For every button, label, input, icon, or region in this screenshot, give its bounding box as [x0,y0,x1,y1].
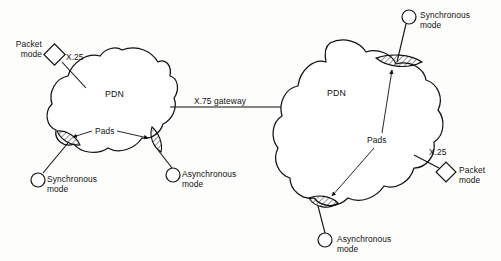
left-synchronous-mode-circle [31,173,45,187]
left-synchronous-mode-label: Synchronous mode [47,174,97,194]
right-x25-label: X.25 [429,147,447,157]
x75-gateway-label: X.75 gateway [194,96,246,106]
right-asynchronous-mode-circle [318,233,332,247]
right-packet-mode-label: Packet mode [459,165,485,185]
diagram-canvas [0,0,501,261]
right-asynchronous-mode-label: Asynchronous mode [337,234,391,254]
left-pads-label: Pads [95,126,115,136]
left-x25-label: X.25 [66,52,84,62]
right-synchronous-mode-circle [402,10,416,24]
right-pdn-label: PDN [327,88,346,98]
left-asynchronous-mode-circle [166,168,180,182]
right-pads-label: Pads [367,135,387,145]
left-synchronous-link [43,143,68,173]
left-pdn-label: PDN [105,89,124,99]
right-asynchronous-link [318,206,325,233]
right-packet-mode-diamond [436,162,456,182]
left-packet-mode-diamond [44,44,65,65]
right-pdn-cloud [273,40,443,206]
right-synchronous-mode-label: Synchronous mode [420,10,470,30]
left-asynchronous-mode-label: Asynchronous mode [182,169,236,189]
left-asynchronous-link [158,150,172,168]
left-packet-mode-label: Packet mode [6,39,42,59]
network-diagram: Packet mode X.25 PDN Pads Synchronous mo… [0,0,501,261]
